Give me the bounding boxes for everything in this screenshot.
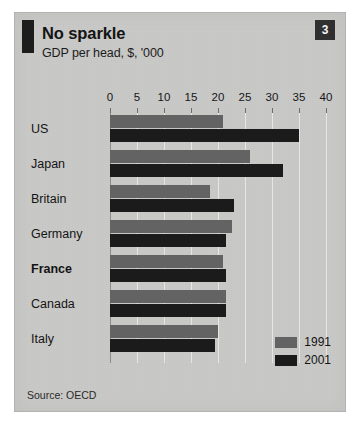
category-label-britain: Britain xyxy=(31,192,66,206)
category-label-canada: Canada xyxy=(31,297,75,311)
bar-germany-1991 xyxy=(110,220,232,233)
category-label-italy: Italy xyxy=(31,332,54,346)
category-label-france: France xyxy=(31,262,72,276)
bar-italy-1991 xyxy=(110,325,218,338)
bar-row-germany: Germany xyxy=(15,218,345,253)
legend-item-2001: 2001 xyxy=(275,353,331,367)
bar-italy-2001 xyxy=(110,339,215,352)
legend-item-1991: 1991 xyxy=(275,335,331,349)
x-tick-label-25: 25 xyxy=(239,91,252,103)
x-tick-label-40: 40 xyxy=(320,91,333,103)
chart-subtitle: GDP per head, $, '000 xyxy=(42,46,164,60)
bar-row-canada: Canada xyxy=(15,288,345,323)
category-label-japan: Japan xyxy=(31,157,65,171)
x-tick-label-20: 20 xyxy=(212,91,225,103)
bar-rows: USJapanBritainGermanyFranceCanadaItaly xyxy=(15,113,345,363)
bar-japan-1991 xyxy=(110,150,250,163)
category-label-germany: Germany xyxy=(31,227,82,241)
chart-title: No sparkle xyxy=(42,24,125,43)
x-tick-label-30: 30 xyxy=(266,91,279,103)
bar-row-britain: Britain xyxy=(15,183,345,218)
chart-legend: 19912001 xyxy=(275,335,331,367)
x-tick-label-5: 5 xyxy=(134,91,140,103)
bar-row-france: France xyxy=(15,253,345,288)
x-tick-label-10: 10 xyxy=(158,91,171,103)
x-tick-label-0: 0 xyxy=(107,91,113,103)
section-tab-marker xyxy=(22,20,34,53)
x-axis-tick-labels: 0510152025303540 xyxy=(15,91,345,109)
legend-label-1991: 1991 xyxy=(304,335,331,349)
bar-row-japan: Japan xyxy=(15,148,345,183)
bar-us-2001 xyxy=(110,129,299,142)
bar-france-2001 xyxy=(110,269,226,282)
chart-number-badge: 3 xyxy=(315,20,335,40)
x-tick-label-15: 15 xyxy=(185,91,198,103)
bar-us-1991 xyxy=(110,115,223,128)
bar-germany-2001 xyxy=(110,234,226,247)
bar-canada-2001 xyxy=(110,304,226,317)
bar-japan-2001 xyxy=(110,164,283,177)
bar-france-1991 xyxy=(110,255,223,268)
bar-row-us: US xyxy=(15,113,345,148)
bar-britain-1991 xyxy=(110,185,210,198)
bar-canada-1991 xyxy=(110,290,226,303)
screenshot-page: No sparkle GDP per head, $, '000 3 05101… xyxy=(0,0,363,433)
legend-swatch-2001 xyxy=(275,355,297,366)
category-label-us: US xyxy=(31,122,48,136)
legend-swatch-1991 xyxy=(275,337,297,348)
source-note: Source: OECD xyxy=(27,389,96,401)
x-tick-label-35: 35 xyxy=(293,91,306,103)
chart-card: No sparkle GDP per head, $, '000 3 05101… xyxy=(14,12,346,412)
bar-britain-2001 xyxy=(110,199,234,212)
legend-label-2001: 2001 xyxy=(304,353,331,367)
